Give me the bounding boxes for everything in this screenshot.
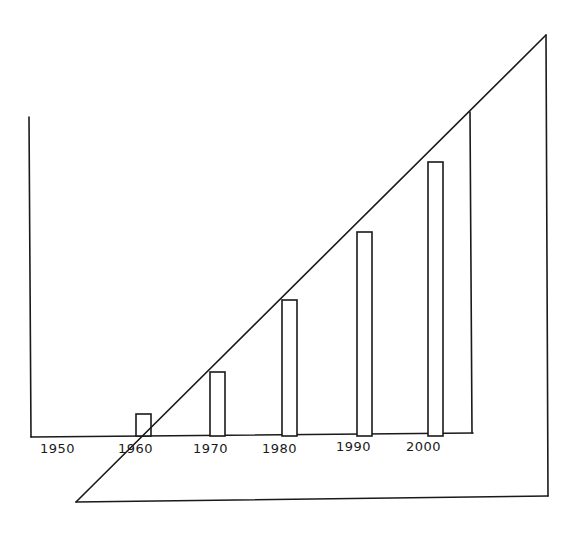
x-tick-label-2000: 2000	[406, 439, 441, 454]
bar-1990	[357, 232, 372, 436]
x-tick-label-1990: 1990	[336, 439, 371, 454]
triangle-base	[76, 496, 548, 502]
x-tick-label-1960: 1960	[118, 441, 153, 456]
bars-group	[136, 162, 443, 436]
x-tick-label-1980: 1980	[262, 441, 297, 456]
bar-2000	[428, 162, 443, 436]
bar-1980	[282, 300, 297, 436]
triangle-hypotenuse	[76, 35, 546, 502]
bar-1970	[210, 372, 225, 436]
y-axis	[29, 117, 31, 437]
triangle-vertical-side	[546, 35, 548, 496]
right-border-line	[470, 112, 472, 433]
x-tick-label-1950: 1950	[40, 441, 75, 456]
x-tick-labels: 1950 1960 1970 1980 1990 2000	[40, 439, 441, 456]
bar-chart: 1950 1960 1970 1980 1990 2000	[0, 0, 582, 533]
x-tick-label-1970: 1970	[193, 441, 228, 456]
x-axis	[31, 433, 473, 437]
bar-1960	[136, 414, 151, 436]
